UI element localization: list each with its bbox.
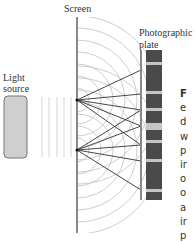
- light-source-label-line2: source: [3, 83, 29, 94]
- caption-line: p: [180, 144, 188, 158]
- caption-line: ir: [180, 215, 188, 229]
- caption-line: d: [180, 115, 188, 129]
- slit-bottom: [76, 149, 79, 152]
- caption-line: ir: [180, 158, 188, 172]
- figure-caption-fragment: F e d w p ir o o a ir p: [180, 87, 188, 242]
- light-source: [4, 96, 27, 158]
- caption-line: p: [180, 229, 188, 242]
- incoming-waves: [42, 97, 71, 157]
- plate-label-line1: Photographic: [139, 27, 192, 38]
- interference-pattern: [146, 50, 162, 200]
- caption-line: e: [180, 101, 188, 115]
- plate-label-line2: plate: [139, 39, 158, 50]
- screen-label: Screen: [64, 3, 91, 14]
- caption-line: o: [180, 186, 188, 200]
- caption-line: o: [180, 172, 188, 186]
- caption-line: w: [180, 130, 188, 144]
- light-source-label-line1: Light: [3, 72, 25, 83]
- caption-line: a: [180, 201, 188, 215]
- slit-top: [76, 99, 79, 102]
- caption-line: F: [180, 87, 188, 101]
